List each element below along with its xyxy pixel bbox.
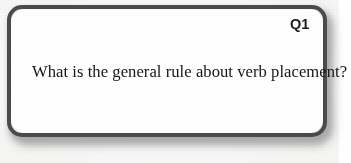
question-text: What is the general rule about verb plac… bbox=[11, 62, 351, 83]
question-card[interactable]: Q1 What is the general rule about verb p… bbox=[7, 5, 327, 137]
question-body: What is the general rule about verb plac… bbox=[11, 9, 323, 133]
